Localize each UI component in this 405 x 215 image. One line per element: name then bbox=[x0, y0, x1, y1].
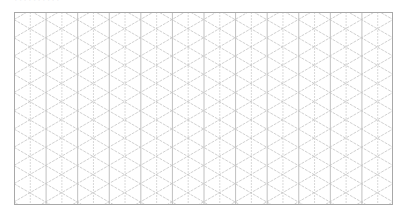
diagonal-grid-line bbox=[14, 0, 393, 202]
diagonal-grid-line bbox=[14, 56, 393, 215]
diagonal-grid-line bbox=[14, 38, 393, 215]
diagonal-grid-line bbox=[14, 165, 393, 215]
diagonal-grid-line bbox=[14, 38, 393, 215]
diagonal-grid-line bbox=[14, 0, 393, 20]
diagonal-grid-line bbox=[14, 0, 393, 38]
diagonal-grid-line bbox=[14, 0, 393, 111]
diagonal-grid-line bbox=[14, 74, 393, 215]
diagonal-grid-line bbox=[14, 202, 393, 215]
diagonal-grid-line bbox=[14, 0, 393, 38]
diagonal-grid-line bbox=[14, 202, 393, 215]
diagonal-grid-line bbox=[14, 74, 393, 215]
diagonal-grid-line bbox=[14, 0, 393, 56]
diagonal-grid-line bbox=[14, 0, 393, 184]
diagonal-grid-line bbox=[14, 0, 393, 165]
diagonal-grid-line bbox=[14, 1, 393, 215]
diagonal-grid-line bbox=[14, 0, 393, 93]
diagonal-grid-line bbox=[14, 20, 393, 215]
diagonal-grid-line bbox=[14, 0, 393, 74]
diagonal-grid-line bbox=[14, 0, 393, 184]
diagonal-grid-line bbox=[14, 111, 393, 215]
diagonal-grid-line bbox=[14, 0, 393, 202]
diagonal-grid-line bbox=[14, 20, 393, 215]
grid-lines bbox=[14, 0, 394, 215]
isometric-grid bbox=[0, 0, 405, 215]
diagonal-grid-line bbox=[14, 1, 393, 215]
diagonal-grid-line bbox=[14, 0, 393, 1]
diagonal-grid-line bbox=[14, 111, 393, 215]
diagonal-grid-line bbox=[14, 0, 393, 56]
diagonal-grid-line bbox=[14, 0, 393, 129]
diagonal-grid-line bbox=[14, 184, 393, 215]
diagonal-grid-line bbox=[14, 56, 393, 215]
diagonal-grid-line bbox=[14, 0, 393, 74]
diagonal-grid-line bbox=[14, 0, 393, 165]
diagonal-grid-line bbox=[14, 0, 393, 111]
diagonal-grid-line bbox=[14, 184, 393, 215]
diagonal-grid-line bbox=[14, 0, 393, 93]
diagonal-grid-line bbox=[14, 0, 393, 1]
diagonal-grid-line bbox=[14, 165, 393, 215]
diagonal-grid-line bbox=[14, 0, 393, 20]
